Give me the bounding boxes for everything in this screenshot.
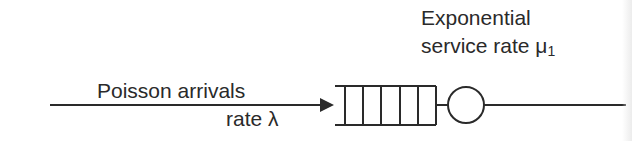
server-circle (448, 87, 484, 123)
right-edge-shadow (622, 0, 632, 141)
service-rate-subscript: 1 (547, 43, 555, 59)
service-label-line2: service rate μ1 (421, 34, 555, 60)
diagram-graphics (0, 0, 632, 141)
queue-diagram: Poisson arrivals rate λ Exponential serv… (0, 0, 632, 141)
queue-buffer (335, 86, 436, 125)
service-rate-text: service rate μ (421, 34, 547, 57)
arrival-label-line1: Poisson arrivals (97, 79, 245, 103)
service-label-line1: Exponential (421, 6, 531, 30)
arrival-label-line2: rate λ (226, 107, 279, 131)
